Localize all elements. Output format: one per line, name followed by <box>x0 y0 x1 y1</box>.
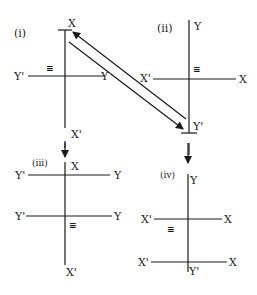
panel-label: (iv) <box>160 170 175 180</box>
axis-label-left-2: Y' <box>14 210 25 223</box>
arrow-i-to-ii <box>69 42 183 129</box>
axis-label-right-2: Y <box>113 210 122 223</box>
panel-label: (iii) <box>32 158 48 168</box>
congruence-symbol: ≡ <box>167 224 175 234</box>
axis-label-bottom: X' <box>71 128 82 141</box>
axis-transformation-diagram: (i) X X' Y' Y ≡ (ii) Y Y' X' X ≡ (iii) X… <box>0 0 257 295</box>
panel-label: (ii) <box>157 22 173 35</box>
axis-label-top: Y <box>189 174 198 187</box>
panel-iv: (iv) Y Y' X' X X' X ≡ <box>138 170 237 278</box>
axis-label-top: Y <box>193 20 202 33</box>
axis-label-left-1: Y' <box>14 169 25 182</box>
axis-label-right-1: Y <box>113 169 122 182</box>
axis-label-top: X <box>68 17 76 30</box>
panel-label: (i) <box>14 27 26 40</box>
axis-label-top: X <box>71 160 79 173</box>
panel-iii: (iii) X X' Y' Y Y' Y ≡ <box>14 158 122 279</box>
axis-label-left-2: X' <box>138 256 149 269</box>
axis-label-left-1: X' <box>141 213 152 226</box>
axis-label-right-2: X <box>229 256 237 269</box>
axis-label-right-1: X <box>224 213 232 226</box>
congruence-symbol: ≡ <box>46 63 54 73</box>
axis-label-left: Y' <box>13 70 24 83</box>
panel-i: (i) X X' Y' Y ≡ <box>13 17 109 148</box>
axis-label-bottom: Y' <box>192 120 203 133</box>
axis-label-left: X' <box>140 72 151 85</box>
axis-label-bottom: Y' <box>188 265 199 278</box>
axis-label-bottom: X' <box>66 266 77 279</box>
congruence-symbol: ≡ <box>69 220 77 230</box>
congruence-symbol: ≡ <box>193 64 201 74</box>
axis-label-right: X <box>239 73 247 86</box>
panel-ii: (ii) Y Y' X' X ≡ <box>140 20 247 155</box>
